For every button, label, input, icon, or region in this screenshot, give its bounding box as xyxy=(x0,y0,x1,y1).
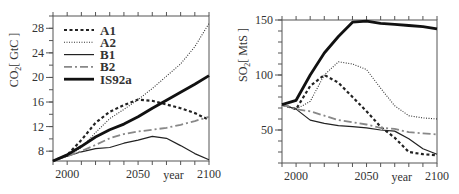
y-label-unit: [ MtS ] xyxy=(236,28,250,63)
y-tick-label: 50 xyxy=(261,123,273,137)
x-tick-label: 2050 xyxy=(126,167,150,181)
y-axis-label: SO2[ MtS ] xyxy=(236,28,252,82)
x-tick-label: 2100 xyxy=(425,169,449,183)
x-tick-label: 2050 xyxy=(355,169,379,183)
y-tick-label: 12 xyxy=(32,120,44,134)
series-b1 xyxy=(282,105,437,155)
y-label-main: CO xyxy=(7,70,21,87)
x-axis-label: year xyxy=(163,168,184,182)
series-b2 xyxy=(53,117,209,161)
chart-so2: 200020502100year50100150SO2[ MtS ] xyxy=(236,13,449,184)
y-axis-label: CO2[ GtC ] xyxy=(7,33,23,88)
y-tick-label: 24 xyxy=(32,46,44,60)
x-tick-label: 2000 xyxy=(55,167,79,181)
x-tick-label: 2000 xyxy=(284,169,308,183)
legend-label-is92a: IS92a xyxy=(100,72,132,87)
legend: A1A2B1B2IS92a xyxy=(64,23,132,87)
series-a2 xyxy=(53,23,209,161)
y-label-unit: [ GtC ] xyxy=(7,33,21,67)
y-tick-label: 28 xyxy=(32,21,44,35)
figure: 200020502100year81216202428CO2[ GtC ]200… xyxy=(0,0,459,194)
series-a1 xyxy=(53,100,209,161)
series-a1 xyxy=(282,75,437,155)
y-tick-label: 20 xyxy=(32,70,44,84)
series-b2 xyxy=(282,105,437,135)
x-tick-label: 2100 xyxy=(197,167,221,181)
y-tick-label: 150 xyxy=(255,13,273,27)
y-tick-label: 8 xyxy=(38,144,44,158)
y-tick-label: 100 xyxy=(255,68,273,82)
series-a2 xyxy=(282,62,437,119)
x-axis-label: year xyxy=(391,170,412,184)
y-tick-label: 16 xyxy=(32,95,44,109)
y-label-main: SO xyxy=(236,66,250,82)
